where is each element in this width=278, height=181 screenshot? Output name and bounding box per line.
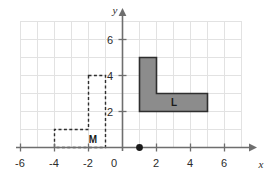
plot-canvas: M L -6 -4 -2 0 2 4 6 <box>0 0 278 181</box>
shape-l-label: L <box>171 97 177 108</box>
center-of-rotation-point <box>136 144 143 151</box>
xtick-label--4: -4 <box>49 157 59 169</box>
xtick-label-6: 6 <box>221 157 227 169</box>
xtick-label--6: -6 <box>15 157 25 169</box>
y-axis-label: y <box>112 4 118 16</box>
ytick-label-4: 4 <box>107 70 113 82</box>
shape-m-label: M <box>89 134 97 145</box>
x-axis-label: x <box>258 158 264 170</box>
xtick-label--2: -2 <box>83 157 93 169</box>
xtick-label-4: 4 <box>187 157 193 169</box>
ytick-label-2: 2 <box>107 106 113 118</box>
coordinate-grid-figure: M L -6 -4 -2 0 2 4 6 <box>0 0 278 181</box>
xtick-label-2: 2 <box>153 157 159 169</box>
xtick-label-0: 0 <box>111 157 117 169</box>
ytick-label-6: 6 <box>107 34 113 46</box>
